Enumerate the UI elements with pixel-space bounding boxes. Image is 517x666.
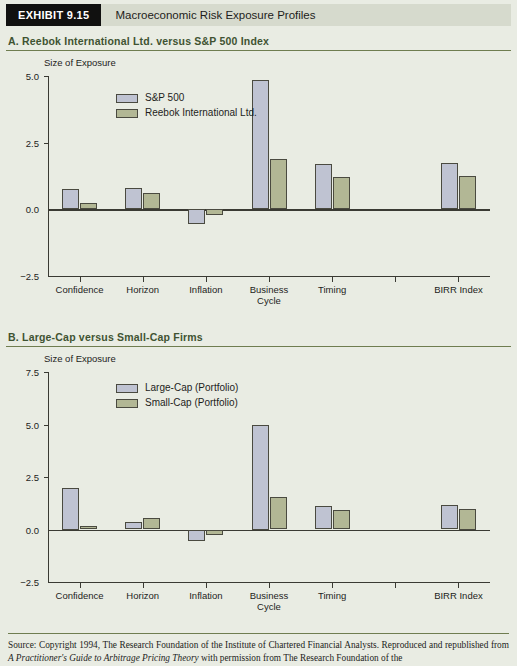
y-axis-line xyxy=(48,76,49,276)
x-axis-label: BIRR Index xyxy=(434,590,483,601)
exhibit-title: Macroeconomic Risk Exposure Profiles xyxy=(101,4,511,26)
chart-legend: Large-Cap (Portfolio)Small-Cap (Portfoli… xyxy=(116,382,238,411)
bar xyxy=(143,518,160,530)
bar xyxy=(270,159,287,210)
x-tick-mark xyxy=(143,583,144,588)
y-tick-mark xyxy=(44,477,49,478)
y-tick-label: −2.5 xyxy=(6,577,39,588)
bar xyxy=(315,164,332,209)
x-axis-label-line: Timing xyxy=(318,284,346,295)
bar xyxy=(206,530,223,535)
bar xyxy=(143,193,160,209)
exhibit-tag: EXHIBIT 9.15 xyxy=(6,4,101,26)
x-axis-label: BusinessCycle xyxy=(250,590,289,612)
source-title: A Practitioner's Guide to Arbitrage Pric… xyxy=(8,653,199,663)
x-axis-label: BIRR Index xyxy=(434,284,483,295)
legend-item: Large-Cap (Portfolio) xyxy=(116,382,238,395)
bar xyxy=(206,209,223,215)
legend-swatch xyxy=(116,384,138,393)
bar xyxy=(459,176,476,209)
zero-line xyxy=(48,209,490,210)
x-tick-mark xyxy=(395,583,396,588)
x-axis-label-line: Horizon xyxy=(126,590,159,601)
y-tick-label: 0.0 xyxy=(6,524,39,535)
x-axis-label: Horizon xyxy=(126,590,159,601)
chart-a: Size of Exposure 5.02.50.0−2.5Confidence… xyxy=(6,57,511,314)
x-axis-label: Horizon xyxy=(126,284,159,295)
x-axis-label: Timing xyxy=(318,590,346,601)
x-tick-mark xyxy=(332,583,333,588)
legend-swatch xyxy=(116,94,138,103)
x-axis-label-line: Inflation xyxy=(189,590,222,601)
y-tick-label: 5.0 xyxy=(6,71,39,82)
x-axis-label-line: Confidence xyxy=(56,284,104,295)
bar xyxy=(333,177,350,209)
x-axis-label-line: Business xyxy=(250,590,289,601)
legend-label: S&P 500 xyxy=(145,92,184,105)
x-axis-label: Confidence xyxy=(56,590,104,601)
chart-b-plot: 7.55.02.50.0−2.5ConfidenceHorizonInflati… xyxy=(6,366,498,620)
legend-item: Small-Cap (Portfolio) xyxy=(116,397,238,410)
x-tick-mark xyxy=(80,277,81,282)
bar xyxy=(188,209,205,224)
bar xyxy=(62,488,79,530)
source-prefix: Source: Copyright 1994, The Research Fou… xyxy=(8,640,509,650)
bar xyxy=(315,506,332,529)
bar xyxy=(80,526,97,529)
y-tick-mark xyxy=(44,425,49,426)
source-suffix: with permission from The Research Founda… xyxy=(199,653,403,663)
x-axis-label: Inflation xyxy=(189,590,222,601)
bar xyxy=(252,425,269,530)
section-b-heading: B. Large-Cap versus Small-Cap Firms xyxy=(6,322,511,347)
x-tick-mark xyxy=(458,277,459,282)
legend-label: Reebok International Ltd. xyxy=(145,107,257,120)
x-axis-label-line: Business xyxy=(250,284,289,295)
legend-swatch xyxy=(116,399,138,408)
x-tick-mark xyxy=(332,277,333,282)
bar xyxy=(459,509,476,530)
legend-label: Large-Cap (Portfolio) xyxy=(145,382,238,395)
y-tick-mark xyxy=(44,76,49,77)
bar xyxy=(125,188,142,209)
x-axis-label-line: Confidence xyxy=(56,590,104,601)
chart-legend: S&P 500Reebok International Ltd. xyxy=(116,92,257,121)
source-note: Source: Copyright 1994, The Research Fou… xyxy=(8,639,509,664)
y-tick-label: 2.5 xyxy=(6,137,39,148)
x-axis-label: Confidence xyxy=(56,284,104,295)
bar xyxy=(188,530,205,542)
x-axis-label: BusinessCycle xyxy=(250,284,289,306)
x-axis-label-line: Cycle xyxy=(250,295,289,306)
chart-b-ylabel: Size of Exposure xyxy=(6,353,511,366)
bar xyxy=(270,497,287,530)
y-tick-label: 0.0 xyxy=(6,204,39,215)
x-axis-label-line: BIRR Index xyxy=(434,284,483,295)
section-a-heading: A. Reebok International Ltd. versus S&P … xyxy=(6,26,511,51)
bar xyxy=(333,510,350,530)
chart-a-ylabel: Size of Exposure xyxy=(6,57,511,70)
y-tick-label: 7.5 xyxy=(6,367,39,378)
bar xyxy=(80,203,97,210)
x-tick-mark xyxy=(80,583,81,588)
x-axis-label-line: Cycle xyxy=(250,601,289,612)
exhibit-header: EXHIBIT 9.15 Macroeconomic Risk Exposure… xyxy=(6,4,511,26)
y-tick-mark xyxy=(44,143,49,144)
chart-a-plot: 5.02.50.0−2.5ConfidenceHorizonInflationB… xyxy=(6,70,498,314)
bar xyxy=(441,163,458,209)
bar xyxy=(441,505,458,529)
x-tick-mark xyxy=(206,277,207,282)
bar xyxy=(62,189,79,210)
x-axis-label: Timing xyxy=(318,284,346,295)
x-tick-mark xyxy=(143,277,144,282)
bar xyxy=(125,522,142,529)
x-axis-label-line: BIRR Index xyxy=(434,590,483,601)
source-divider xyxy=(8,633,509,634)
y-tick-mark xyxy=(44,372,49,373)
x-tick-mark xyxy=(206,583,207,588)
x-axis-label: Inflation xyxy=(189,284,222,295)
zero-line xyxy=(48,530,490,531)
legend-item: S&P 500 xyxy=(116,92,257,105)
y-tick-label: −2.5 xyxy=(6,271,39,282)
x-tick-mark xyxy=(269,277,270,282)
x-axis-label-line: Inflation xyxy=(189,284,222,295)
x-tick-mark xyxy=(269,583,270,588)
